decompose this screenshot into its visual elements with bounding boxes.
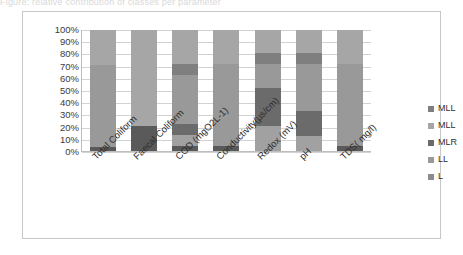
- bar-segment: [255, 30, 281, 53]
- y-axis-tick: 10%: [60, 135, 79, 145]
- legend-label: MLL: [438, 121, 456, 130]
- chart-frame: 0%10%20%30%40%50%60%70%80%90%100% Total …: [22, 11, 441, 239]
- x-axis-labels: Total ColiformFaecal ColiformCOD (mgO2L-…: [81, 154, 371, 249]
- bar-segment: [337, 30, 363, 64]
- y-axis-tick: 40%: [60, 98, 79, 108]
- y-axis-tick: 70%: [60, 62, 79, 72]
- bar-segment: [172, 64, 198, 75]
- legend-label: MLR: [438, 138, 457, 147]
- y-axis-tick: 50%: [60, 86, 79, 96]
- y-axis: 0%10%20%30%40%50%60%70%80%90%100%: [47, 29, 79, 153]
- legend-swatch-icon: [428, 174, 434, 180]
- bar-segment: [90, 30, 116, 65]
- y-axis-tick: 80%: [60, 50, 79, 60]
- bar-segment: [255, 53, 281, 64]
- legend-swatch-icon: [428, 106, 434, 112]
- y-axis-tick: 20%: [60, 123, 79, 133]
- legend-swatch-icon: [428, 140, 434, 146]
- bar-segment: [296, 30, 322, 53]
- bar-segment: [296, 111, 322, 136]
- bar-segment: [131, 30, 157, 126]
- bar-segment: [213, 30, 239, 64]
- legend-label: LL: [438, 155, 448, 164]
- legend-swatch-icon: [428, 157, 434, 163]
- legend-item[interactable]: MLL: [428, 100, 463, 117]
- legend-item[interactable]: MLR: [428, 134, 463, 151]
- y-axis-tick: 0%: [65, 147, 79, 157]
- chart-legend: MLLMLLMLRLLL: [428, 100, 463, 185]
- legend-label: L: [438, 172, 443, 181]
- stacked-bar: [296, 30, 322, 151]
- y-axis-tick: 30%: [60, 111, 79, 121]
- legend-label: MLL: [438, 104, 456, 113]
- bar-segment: [296, 53, 322, 64]
- bar-segment: [172, 30, 198, 64]
- legend-swatch-icon: [428, 123, 434, 129]
- y-axis-tick: 60%: [60, 74, 79, 84]
- bar-segment: [296, 64, 322, 111]
- bar-segment: [255, 64, 281, 88]
- legend-item[interactable]: MLL: [428, 117, 463, 134]
- y-axis-tick: 100%: [55, 25, 79, 35]
- cropped-caption-remnant: Figure: relative contribution of classes…: [0, 0, 463, 8]
- legend-item[interactable]: LL: [428, 151, 463, 168]
- legend-item[interactable]: L: [428, 168, 463, 185]
- caption-remnant-text: Figure: relative contribution of classes…: [0, 0, 221, 7]
- y-axis-tick: 90%: [60, 37, 79, 47]
